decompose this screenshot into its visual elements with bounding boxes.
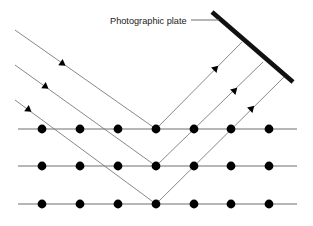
atom-r3-c7 <box>265 200 274 209</box>
incident-ray-1 <box>15 30 156 129</box>
atom-r1-c4 <box>152 125 161 134</box>
atom-r3-c5 <box>190 200 199 209</box>
reflected-ray-1 <box>156 42 242 129</box>
bragg-diffraction-diagram: Photographic plate <box>0 0 313 226</box>
atom-r3-c3 <box>114 200 123 209</box>
atom-r1-c1 <box>38 125 47 134</box>
atom-r1-c7 <box>265 125 274 134</box>
label-layer: Photographic plate <box>110 16 219 26</box>
atom-r1-c2 <box>76 125 85 134</box>
atom-r2-c2 <box>76 162 85 171</box>
atom-r3-c6 <box>227 200 236 209</box>
atom-r1-c5 <box>190 125 199 134</box>
atom-r2-c3 <box>114 162 123 171</box>
photographic-plate <box>212 12 293 82</box>
atom-r3-c1 <box>38 200 47 209</box>
atom-r2-c4 <box>152 162 161 171</box>
atom-r3-c4 <box>152 200 161 209</box>
incident-ray-2-arrow-icon <box>41 82 48 89</box>
reflected-ray-3 <box>156 76 285 204</box>
atom-r1-c6 <box>227 125 236 134</box>
atom-r2-c1 <box>38 162 47 171</box>
atom-r2-c7 <box>265 162 274 171</box>
atom-r2-c5 <box>190 162 199 171</box>
incident-ray-1-arrow-icon <box>58 59 65 66</box>
atom-r3-c2 <box>76 200 85 209</box>
reflected-ray-3-arrow-icon <box>247 106 254 113</box>
diagram-canvas: Photographic plate <box>0 0 313 226</box>
incident-ray-3-arrow-icon <box>24 105 31 112</box>
rays-layer <box>15 30 285 204</box>
atom-r2-c6 <box>227 162 236 171</box>
reflected-ray-2-arrow-icon <box>230 88 237 95</box>
atom-r1-c3 <box>114 125 123 134</box>
photographic-plate-label: Photographic plate <box>110 16 187 26</box>
plate-layer <box>212 12 293 82</box>
